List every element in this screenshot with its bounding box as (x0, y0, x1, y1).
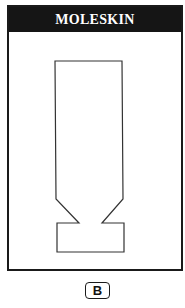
figure-label-badge: B (85, 282, 110, 299)
moleskin-cutout-shape (0, 0, 185, 308)
